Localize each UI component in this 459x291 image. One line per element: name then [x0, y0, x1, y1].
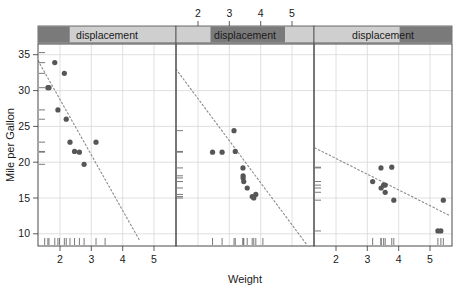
- data-points: [370, 165, 446, 234]
- data-point: [231, 128, 236, 133]
- y-tick-label: 20: [18, 156, 30, 168]
- data-point: [251, 195, 256, 200]
- data-point: [370, 179, 375, 184]
- y-tick-label: 30: [18, 84, 30, 96]
- strip-header: displacement: [314, 26, 452, 43]
- x-tick-label: 4: [258, 7, 264, 19]
- data-point: [383, 190, 388, 195]
- panel-1: [38, 44, 154, 246]
- data-point: [67, 140, 72, 145]
- grid-lines: [38, 55, 452, 234]
- strip-shingle-range: [38, 27, 70, 43]
- x-tick-label: 3: [364, 253, 370, 265]
- x-tick-label: 5: [151, 253, 157, 265]
- data-points: [210, 128, 258, 201]
- data-point: [389, 165, 394, 170]
- x-tick-label: 2: [195, 7, 201, 19]
- strip-header: displacement: [38, 26, 176, 43]
- data-point: [383, 183, 388, 188]
- data-point: [378, 165, 383, 170]
- x-tick-label: 3: [226, 7, 232, 19]
- data-point: [441, 198, 446, 203]
- x-axis-bottom: 2345: [57, 246, 157, 265]
- data-point: [82, 162, 87, 167]
- data-point: [438, 228, 443, 233]
- x-tick-label: 5: [289, 7, 295, 19]
- data-point: [240, 165, 245, 170]
- data-point: [391, 198, 396, 203]
- plot-canvas: displacement2345displacement2345displace…: [0, 0, 459, 291]
- data-point: [220, 150, 225, 155]
- panel-border: [176, 44, 314, 246]
- y-tick-label: 15: [18, 192, 30, 204]
- strip-header: displacement: [176, 26, 314, 43]
- strip-label: displacement: [214, 29, 276, 41]
- data-point: [210, 150, 215, 155]
- data-point: [77, 150, 82, 155]
- panel-border: [314, 44, 452, 246]
- data-point: [64, 117, 69, 122]
- x-tick-label: 4: [120, 253, 126, 265]
- x-tick-label: 5: [427, 253, 433, 265]
- trellis-plot: displacement2345displacement2345displace…: [0, 0, 459, 291]
- y-tick-label: 10: [18, 227, 30, 239]
- panel-3: [315, 44, 451, 246]
- x-axis-bottom: 2345: [333, 246, 433, 265]
- data-point: [233, 149, 238, 154]
- fit-line: [176, 69, 306, 244]
- data-point: [62, 71, 67, 76]
- data-point: [46, 85, 51, 90]
- x-tick-label: 3: [88, 253, 94, 265]
- data-point: [72, 149, 77, 154]
- fit-line: [38, 61, 140, 242]
- y-axis-title: Mile per Gallon: [4, 108, 16, 182]
- data-points: [45, 60, 98, 167]
- panel-border: [38, 44, 176, 246]
- strip-label: displacement: [352, 29, 414, 41]
- data-point: [245, 185, 250, 190]
- x-tick-label: 2: [333, 253, 339, 265]
- data-point: [52, 60, 57, 65]
- data-point: [241, 179, 246, 184]
- strip-label: displacement: [76, 29, 138, 41]
- panel-2: [176, 44, 306, 246]
- x-axis-top: 2345: [195, 7, 295, 26]
- y-axis: 101520253035: [18, 48, 38, 239]
- x-tick-label: 2: [57, 253, 63, 265]
- data-point: [55, 107, 60, 112]
- y-tick-label: 25: [18, 120, 30, 132]
- data-point: [93, 140, 98, 145]
- y-tick-label: 35: [18, 48, 30, 60]
- x-axis-title: Weight: [228, 273, 262, 285]
- x-tick-label: 4: [396, 253, 402, 265]
